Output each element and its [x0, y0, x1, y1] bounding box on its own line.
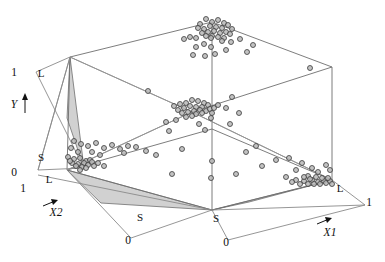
data-point [186, 110, 191, 115]
data-point [180, 147, 185, 152]
data-point [234, 172, 239, 177]
data-point [298, 182, 303, 187]
y-arrow-head [22, 93, 28, 100]
x2-axis-min-label: 0 [125, 234, 131, 246]
data-point [144, 149, 149, 154]
x1-axis-fan-a [212, 205, 365, 210]
data-point [230, 95, 235, 100]
x1-axis-max-label: 1 [366, 196, 372, 208]
data-point [98, 153, 103, 158]
x2-axis-fan-b [131, 210, 212, 238]
data-point [203, 128, 208, 133]
data-point [78, 156, 83, 161]
data-point [196, 26, 201, 31]
data-point [190, 98, 195, 103]
data-point [314, 175, 319, 180]
data-point [308, 66, 313, 71]
data-point [191, 53, 196, 58]
data-point [188, 35, 193, 40]
data-point [94, 141, 99, 146]
data-point [202, 42, 207, 47]
data-point [210, 159, 215, 164]
data-point [188, 104, 193, 109]
data-point [228, 32, 233, 37]
y-axis-max-label: 1 [11, 66, 17, 78]
data-point [209, 176, 214, 181]
figure-container: 1 Y L S 0 1 L S 0 X2 S 0 L 1 X1 [0, 0, 385, 262]
data-point [216, 35, 221, 40]
x1-arrow-head [325, 217, 332, 223]
data-point [72, 139, 77, 144]
data-point [308, 177, 313, 182]
axis-level-fans [36, 57, 365, 240]
data-point [251, 43, 256, 48]
data-point [182, 106, 187, 111]
y-level-S-label: S [38, 151, 44, 163]
data-point [102, 146, 107, 151]
data-point [238, 37, 243, 42]
data-point [167, 129, 172, 134]
x2-level-L-label: L [46, 173, 53, 185]
data-point [110, 143, 115, 148]
data-point [197, 122, 202, 127]
data-point [306, 182, 311, 187]
y-axis-min-label: 0 [11, 166, 17, 178]
data-point [200, 111, 205, 116]
data-point [79, 142, 84, 147]
data-point [212, 29, 217, 34]
data-point [310, 166, 315, 171]
axis-text-labels: 1 Y L S 0 1 L S 0 X2 S 0 L 1 X1 [11, 66, 372, 248]
data-point [178, 102, 183, 107]
data-point [320, 176, 325, 181]
x1-axis-fan-c [228, 205, 365, 240]
data-point [182, 37, 187, 42]
data-point [74, 164, 79, 169]
data-point [244, 150, 249, 155]
data-point [134, 145, 139, 150]
data-point [254, 144, 259, 149]
data-point [330, 182, 335, 187]
data-point [180, 111, 185, 116]
data-point [226, 23, 231, 28]
data-point [312, 182, 317, 187]
data-point [96, 161, 101, 166]
data-point [209, 45, 214, 50]
data-point [328, 168, 333, 173]
data-point [90, 150, 95, 155]
data-point [213, 52, 218, 57]
x1-level-L-label: L [337, 182, 344, 194]
data-point [203, 54, 208, 59]
data-point [194, 45, 199, 50]
data-point [245, 50, 250, 55]
data-point [224, 106, 229, 111]
data-point [230, 27, 235, 32]
data-point [284, 175, 289, 180]
data-point [216, 103, 221, 108]
data-point [318, 182, 323, 187]
data-point [122, 151, 127, 156]
data-point [76, 150, 81, 155]
data-point [287, 156, 292, 161]
data-point [146, 89, 151, 94]
data-point [302, 175, 307, 180]
data-point [118, 147, 123, 152]
data-point [164, 120, 169, 125]
data-point [316, 170, 321, 175]
data-point [190, 114, 195, 119]
data-point [174, 118, 179, 123]
data-point [224, 48, 229, 53]
x2-axis-name-label: X2 [49, 206, 63, 218]
y-level-L-label: L [38, 67, 45, 79]
x1-axis-min-label: 0 [223, 236, 229, 248]
data-point [216, 18, 221, 23]
data-point [228, 122, 233, 127]
data-point [172, 104, 177, 109]
data-point [294, 168, 299, 173]
data-point [69, 146, 74, 151]
data-point [209, 116, 214, 121]
data-point [86, 144, 91, 149]
data-point [154, 153, 159, 158]
data-point [220, 26, 225, 31]
x2-axis-max-label: 1 [20, 182, 26, 194]
cube-scatter-plot: 1 Y L S 0 1 L S 0 X2 S 0 L 1 X1 [0, 0, 385, 262]
